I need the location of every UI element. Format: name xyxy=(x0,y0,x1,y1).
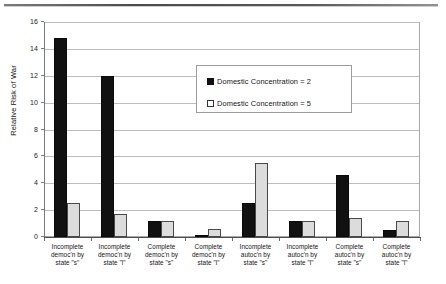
x-axis-label-line: Complete xyxy=(370,243,424,251)
bar xyxy=(242,203,255,237)
x-axis-label-line: state "l" xyxy=(370,259,424,267)
bar xyxy=(67,203,80,237)
x-axis-category-label: Incompleteautoc'n bystate "l" xyxy=(276,243,330,267)
x-axis-label-line: democ'n by xyxy=(182,251,236,259)
x-axis-category-label: Completeautoc'n bystate "l" xyxy=(370,243,424,267)
x-axis-label-line: Complete xyxy=(135,243,189,251)
x-axis-tick xyxy=(232,238,233,241)
x-axis-tick xyxy=(279,238,280,241)
x-axis-category-label: Completedemoc'n bystate "s" xyxy=(135,243,189,267)
x-axis-label-line: autoc'n by xyxy=(370,251,424,259)
y-axis-tick xyxy=(41,75,44,76)
x-axis-tick xyxy=(420,238,421,241)
bar xyxy=(208,229,221,237)
bar xyxy=(255,163,268,237)
y-axis-tick-label: 2 xyxy=(20,206,38,213)
x-axis-category-label: Completedemoc'n bystate "l" xyxy=(182,243,236,267)
x-axis-tick xyxy=(44,238,45,241)
x-axis-label-line: state "l" xyxy=(276,259,330,267)
x-axis-label-line: autoc'n by xyxy=(276,251,330,259)
y-axis-tick-label: 16 xyxy=(20,18,38,25)
x-axis-label-line: democ'n by xyxy=(88,251,142,259)
x-axis-label-line: Incomplete xyxy=(41,243,95,251)
y-axis-tick xyxy=(41,236,44,237)
bars-layer xyxy=(44,22,420,237)
legend-entry-series-2: Domestic Concentration = 5 xyxy=(207,95,351,111)
bar xyxy=(54,38,67,237)
bar xyxy=(302,221,315,237)
x-axis-label-line: democ'n by xyxy=(135,251,189,259)
y-axis-tick-label: 10 xyxy=(20,99,38,106)
y-axis-tick-label: 0 xyxy=(20,233,38,240)
x-axis-label-line: Incomplete xyxy=(229,243,283,251)
y-axis-tick xyxy=(41,155,44,156)
legend-swatch-filled-icon xyxy=(207,78,214,85)
y-axis-tick xyxy=(41,209,44,210)
x-axis-label-line: state "s" xyxy=(229,259,283,267)
y-axis-title: Relative Risk of War xyxy=(9,36,18,166)
legend-label: Domestic Concentration = 5 xyxy=(217,99,311,108)
x-axis-tick xyxy=(326,238,327,241)
x-axis-label-line: state "l" xyxy=(88,259,142,267)
x-axis-label-line: Complete xyxy=(182,243,236,251)
x-axis-label-line: Incomplete xyxy=(88,243,142,251)
x-axis-category-label: Incompletedemoc'n bystate "l" xyxy=(88,243,142,267)
y-axis-line xyxy=(44,22,45,238)
x-axis-category-label: Incompleteautoc'n bystate "s" xyxy=(229,243,283,267)
y-axis-tick xyxy=(41,21,44,22)
bar xyxy=(114,214,127,237)
legend-label: Domestic Concentration = 2 xyxy=(217,77,311,86)
x-axis-label-line: Complete xyxy=(323,243,377,251)
x-axis-label-line: state "s" xyxy=(323,259,377,267)
bar xyxy=(396,221,409,237)
x-axis-label-line: Incomplete xyxy=(276,243,330,251)
bar xyxy=(383,230,396,237)
y-axis-tick-label: 8 xyxy=(20,126,38,133)
y-axis-tick xyxy=(41,48,44,49)
x-axis-category-label: Completeautoc'n bystate "s" xyxy=(323,243,377,267)
legend-swatch-hollow-icon xyxy=(207,100,214,107)
x-axis-category-label: Incompletedemoc'n bystate "s" xyxy=(41,243,95,267)
bar xyxy=(148,221,161,237)
y-axis-tick-label: 14 xyxy=(20,45,38,52)
bar xyxy=(289,221,302,237)
y-axis-tick xyxy=(41,129,44,130)
scan-artifact-line-secondary xyxy=(4,6,438,7)
y-axis-tick-label: 12 xyxy=(20,72,38,79)
legend-entry-series-1: Domestic Concentration = 2 xyxy=(207,73,351,89)
chart-legend: Domestic Concentration = 2 Domestic Conc… xyxy=(196,65,352,113)
x-axis-tick xyxy=(185,238,186,241)
x-axis-label-line: state "s" xyxy=(135,259,189,267)
y-axis-tick xyxy=(41,182,44,183)
x-axis-tick xyxy=(138,238,139,241)
y-axis-tick-label: 6 xyxy=(20,152,38,159)
y-axis-tick-label: 4 xyxy=(20,179,38,186)
x-axis-label-line: autoc'n by xyxy=(323,251,377,259)
x-axis-label-line: democ'n by xyxy=(41,251,95,259)
bar xyxy=(336,175,349,237)
bar xyxy=(161,221,174,237)
bar xyxy=(349,218,362,237)
bar-chart: 0246810121416 Relative Risk of War Incom… xyxy=(0,0,446,284)
x-axis-tick xyxy=(91,238,92,241)
y-axis-tick xyxy=(41,102,44,103)
x-axis-label-line: state "l" xyxy=(182,259,236,267)
x-axis-tick xyxy=(373,238,374,241)
x-axis-label-line: state "s" xyxy=(41,259,95,267)
bar xyxy=(101,76,114,237)
x-axis-label-line: autoc'n by xyxy=(229,251,283,259)
